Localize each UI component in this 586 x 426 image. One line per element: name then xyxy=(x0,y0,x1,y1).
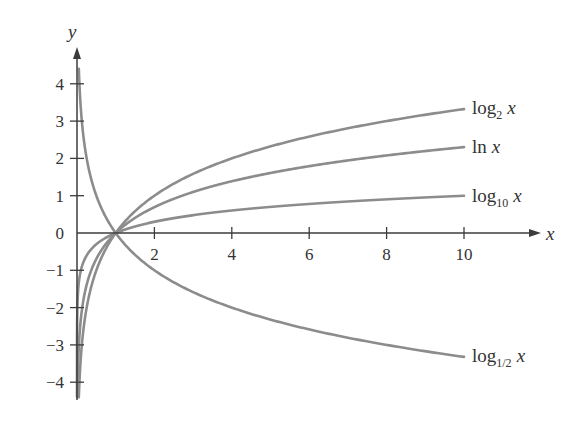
curve-label-log-1-2-x: log1/2x xyxy=(472,345,526,370)
curve-log-1-2-x xyxy=(79,69,464,357)
y-tick-label: 4 xyxy=(56,75,65,94)
y-tick-label: −1 xyxy=(46,261,64,280)
x-axis-arrow-icon xyxy=(529,229,541,237)
curve-ln-x xyxy=(77,147,464,397)
y-tick-label: −4 xyxy=(46,373,65,392)
curve-log-10-x xyxy=(77,196,464,397)
x-tick-label: 6 xyxy=(305,245,314,264)
y-axis-label: y xyxy=(66,21,77,42)
y-tick-label: 2 xyxy=(56,149,65,168)
y-axis-arrow-icon xyxy=(73,47,81,59)
y-tick-label: −3 xyxy=(46,336,64,355)
x-tick-label: 2 xyxy=(150,245,159,264)
log-functions-chart: 246810 −4−3−2−101234 x y log2xlnxlog10xl… xyxy=(0,0,586,426)
curve-label-ln-x: lnx xyxy=(472,136,501,157)
curve-label-log-2-x: log2x xyxy=(472,97,516,122)
y-tick-label: 3 xyxy=(56,112,65,131)
y-tick-label: −2 xyxy=(46,299,64,318)
y-tick-label: 0 xyxy=(56,224,65,243)
axes-group: 246810 −4−3−2−101234 xyxy=(46,47,541,400)
x-tick-label: 10 xyxy=(456,245,473,264)
curve-label-log-10-x: log10x xyxy=(472,185,522,210)
x-axis-label: x xyxy=(545,223,555,244)
x-tick-label: 4 xyxy=(228,245,237,264)
y-tick-label: 1 xyxy=(56,187,65,206)
x-tick-label: 8 xyxy=(382,245,391,264)
